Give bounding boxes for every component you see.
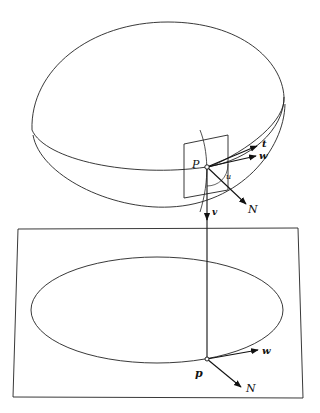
diagram-canvas: P t w N v u p w N <box>0 0 320 413</box>
meridian-curve <box>200 130 207 212</box>
label-w-lower: w <box>262 345 271 356</box>
ellipsoid <box>32 22 285 207</box>
vector-N-lower <box>207 359 241 387</box>
lower-ellipse <box>31 257 283 363</box>
ellipsoid-lower-rim <box>33 104 285 207</box>
angle-arc <box>207 164 228 186</box>
lower-plane <box>13 228 303 398</box>
vector-w-lower <box>207 350 258 359</box>
point-p <box>205 357 209 361</box>
ellipsoid-equator <box>32 97 284 170</box>
label-N-upper: N <box>247 203 258 216</box>
point-P <box>205 165 209 169</box>
vector-w-upper <box>207 156 256 167</box>
label-angle: u <box>226 172 231 181</box>
vector-t <box>207 146 257 167</box>
ellipsoid-outline <box>32 22 284 168</box>
label-t: t <box>262 138 267 149</box>
label-P: P <box>191 158 200 171</box>
label-v: v <box>212 207 218 217</box>
label-w-upper: w <box>259 150 268 161</box>
label-N-lower: N <box>245 382 256 395</box>
label-p: p <box>195 367 203 380</box>
